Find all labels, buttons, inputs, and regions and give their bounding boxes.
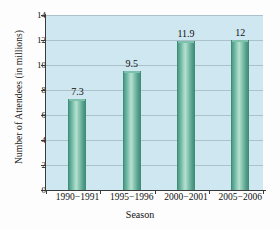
x-axis-tick-mark [46, 190, 47, 194]
x-axis-tick-label: 2000−2001 [164, 192, 207, 202]
x-axis-tick-label: 2005−2006 [219, 192, 262, 202]
plot-area [46, 15, 263, 190]
x-axis-title: Season [0, 209, 280, 220]
bar [177, 41, 195, 190]
bar-chart: Number of Attendees (in millions) 024681… [0, 0, 280, 229]
bar [231, 40, 249, 190]
x-axis-tick-label: 1990−1991 [56, 192, 99, 202]
bar-value-label: 12 [235, 27, 245, 38]
bar-value-label: 11.9 [177, 28, 194, 39]
bar [123, 71, 141, 190]
x-axis-tick-label: 1995−1996 [110, 192, 153, 202]
bar-top-cap [124, 71, 140, 73]
y-axis-line [45, 14, 46, 191]
bar-value-label: 9.5 [125, 58, 138, 69]
y-axis-tick-marks [0, 0, 46, 229]
x-axis-tick-mark [155, 190, 156, 194]
bar [68, 99, 86, 190]
gridline [46, 15, 263, 16]
x-axis-tick-mark [263, 190, 264, 194]
bar-top-cap [232, 40, 248, 42]
x-axis-tick-mark [100, 190, 101, 194]
bar-top-cap [178, 41, 194, 43]
x-axis-tick-mark [209, 190, 210, 194]
bar-value-label: 7.3 [71, 86, 84, 97]
bar-top-cap [69, 99, 85, 101]
